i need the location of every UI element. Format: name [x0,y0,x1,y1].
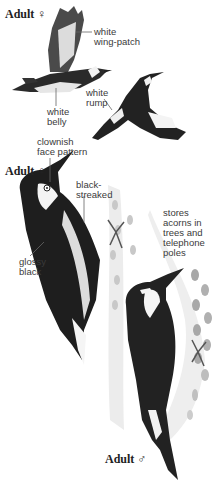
label-glossy-black: glossy black [19,257,46,277]
heading-adult-female-flight: Adult♀ [5,7,46,22]
label-stores-acorns: stores acorns in trees and telephone pol… [163,208,205,258]
heading-adult-female-perched: Adult♀ [5,164,46,179]
label-white-rump: white rump [86,88,108,108]
label-black-streaked: black- streaked [76,180,112,200]
label-clownish-face-pattern: clownish face pattern [37,137,87,157]
label-white-belly: white belly [47,107,69,127]
perched-male-woodpecker [126,268,184,480]
illustration-canvas: Adult♀ Adult♀ Adult♂ white wing-patch wh… [0,0,224,484]
label-white-wing-patch: white wing-patch [94,27,140,47]
heading-adult-male: Adult♂ [105,452,146,467]
